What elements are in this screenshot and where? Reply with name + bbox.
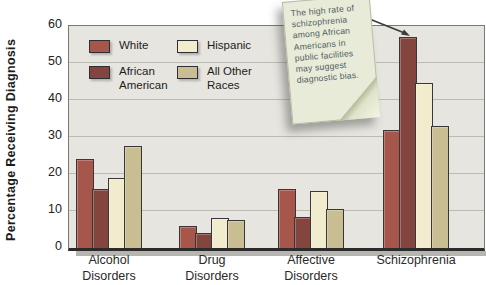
legend-swatch-icon <box>89 66 110 79</box>
legend-swatch-icon <box>89 40 110 53</box>
legend-item-all-other-races: All Other Races <box>177 66 271 93</box>
bar-group-schizophrenia <box>383 26 451 248</box>
y-tick-label: 20 <box>26 165 62 179</box>
legend-label: All Other Races <box>207 65 271 93</box>
bar-group-drug-disorders <box>179 26 247 248</box>
bar-all-other-races <box>227 220 245 248</box>
page-curl-icon <box>337 77 380 120</box>
y-tick-label: 50 <box>26 54 62 68</box>
legend-item-african-american: African American <box>89 66 183 93</box>
bar-chart-figure: Percentage Receiving Diagnosis 010203040… <box>0 0 486 285</box>
legend-label: African American <box>119 65 183 93</box>
bar-all-other-races <box>431 126 449 248</box>
x-category-label: AffectiveDisorders <box>251 253 371 284</box>
legend-item-hispanic: Hispanic <box>177 40 271 53</box>
y-tick-label: 60 <box>26 17 62 31</box>
legend-item-white: White <box>89 40 183 53</box>
plot-area: WhiteAfrican AmericanHispanicAll Other R… <box>68 25 485 251</box>
sticky-note: The high rate of schizophrenia among Afr… <box>282 0 380 125</box>
sticky-note-text: The high rate of schizophrenia among Afr… <box>283 0 376 87</box>
bar-all-other-races <box>124 146 142 248</box>
legend-label: Hispanic <box>207 39 271 53</box>
bar-group-alcohol-disorders <box>76 26 144 248</box>
y-axis-title: Percentage Receiving Diagnosis <box>2 30 20 250</box>
legend-swatch-icon <box>177 40 198 53</box>
x-category-label: Schizophrenia <box>356 253 476 269</box>
y-tick-label: 40 <box>26 91 62 105</box>
y-tick-label: 0 <box>26 239 62 253</box>
legend-swatch-icon <box>177 66 198 79</box>
bar-all-other-races <box>326 209 344 248</box>
legend-label: White <box>119 39 183 53</box>
x-category-label: AlcoholDisorders <box>49 253 169 284</box>
y-tick-label: 30 <box>26 128 62 142</box>
y-tick-label: 10 <box>26 202 62 216</box>
